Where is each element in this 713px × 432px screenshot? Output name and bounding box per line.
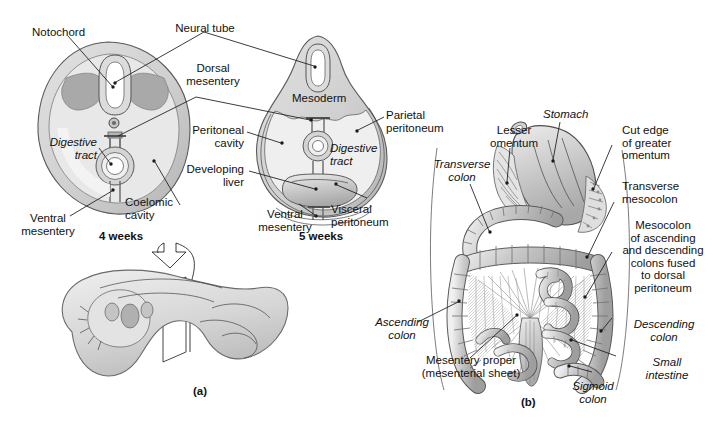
label-cut-edge-of-greater-omentum: Cut edge of greater omentum <box>622 124 671 162</box>
label-peritoneal-cavity: Peritoneal cavity <box>172 124 244 149</box>
embryo-illustration <box>62 243 288 376</box>
label-mesocolon-fused-to-dorsal-peritoneum: Mesocolon of ascending and descending co… <box>613 219 713 295</box>
label-coelomic-cavity: Coelomic cavity <box>125 196 173 221</box>
label-dorsal-mesentery: Dorsal mesentery <box>173 62 253 87</box>
label-stomach: Stomach <box>543 108 588 121</box>
label-notochord: Notochord <box>32 26 85 39</box>
label-transverse-colon: Transverse colon <box>423 158 501 183</box>
panel-a-caption: (a) <box>193 385 207 398</box>
label-mesoderm: Mesoderm <box>292 92 346 105</box>
section-5-weeks <box>257 36 387 225</box>
label-neural-tube: Neural tube <box>164 22 246 35</box>
label-lesser-omentum: Lesser omentum <box>479 124 549 149</box>
panel-b-caption: (b) <box>521 396 536 409</box>
label-developing-liver: Developing liver <box>170 163 244 188</box>
stage-label-4-weeks: 4 weeks <box>99 230 143 243</box>
label-ventral-mesentery-4-weeks: Ventral mesentery <box>8 212 88 237</box>
label-descending-colon: Descending colon <box>622 318 706 343</box>
label-parietal-peritoneum: Parietal peritoneum <box>386 109 444 134</box>
section-4-weeks <box>38 42 190 214</box>
label-mesentery-proper: Mesentery proper (mesenterial sheet) <box>396 354 546 379</box>
label-visceral-peritoneum: Visceral peritoneum <box>331 203 389 228</box>
label-transverse-mesocolon: Transverse mesocolon <box>622 180 679 205</box>
label-small-intestine: Small intestine <box>632 356 702 381</box>
label-ascending-colon: Ascending colon <box>364 316 440 341</box>
stage-label-5-weeks: 5 weeks <box>299 230 343 243</box>
anatomy-figure: Notochord Neural tube Dorsal mesentery M… <box>0 0 713 432</box>
label-sigmoid-colon: Sigmoid colon <box>558 380 628 405</box>
label-digestive-tract-4-weeks: Digestive tract <box>20 136 97 161</box>
label-digestive-tract-5-weeks: Digestive tract <box>330 142 377 167</box>
